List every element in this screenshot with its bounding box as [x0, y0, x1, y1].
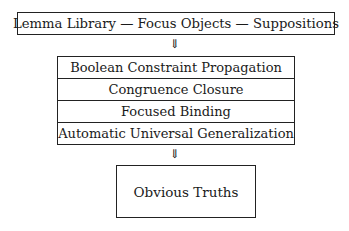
step-label: Boolean Constraint Propagation	[70, 60, 282, 75]
output-label: Obvious Truths	[134, 184, 239, 200]
step-label: Automatic Universal Generalization	[58, 126, 294, 141]
step-boolean-constraint-propagation: Boolean Constraint Propagation	[58, 57, 294, 79]
step-label: Focused Binding	[121, 104, 231, 119]
step-label: Congruence Closure	[108, 82, 243, 97]
down-double-arrow-icon: ⇓	[0, 148, 349, 160]
down-double-arrow-icon: ⇓	[0, 38, 349, 50]
input-sources-box: Lemma Library — Focus Objects — Supposit…	[17, 12, 335, 35]
step-automatic-universal-generalization: Automatic Universal Generalization	[58, 123, 294, 144]
input-sources-label: Lemma Library — Focus Objects — Supposit…	[13, 16, 339, 31]
step-focused-binding: Focused Binding	[58, 101, 294, 123]
output-box: Obvious Truths	[116, 165, 256, 218]
step-congruence-closure: Congruence Closure	[58, 79, 294, 101]
reasoning-steps-stack: Boolean Constraint Propagation Congruenc…	[57, 56, 295, 145]
